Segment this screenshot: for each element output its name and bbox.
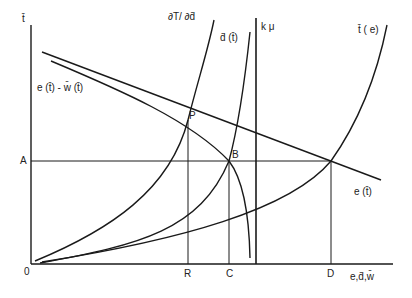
tick-r: R bbox=[184, 269, 191, 279]
diagram-canvas bbox=[0, 0, 412, 298]
point-b: B bbox=[232, 150, 239, 160]
curve-label-d-t: d̄ (t̄) bbox=[220, 33, 238, 43]
dT-dd-curve bbox=[35, 20, 214, 261]
curve-label-dT-dd: ∂T/ ∂d̄ bbox=[168, 12, 195, 22]
tick-a: A bbox=[20, 156, 27, 166]
point-p: P bbox=[189, 111, 196, 121]
curve-label-e-minus-w: e (t̄) - w̄ (t̄) bbox=[37, 83, 83, 93]
d-t-curve bbox=[40, 32, 250, 263]
curve-label-t-e: t̄ ( e) bbox=[358, 25, 379, 35]
t-e-curve bbox=[42, 25, 387, 262]
origin-label: 0 bbox=[24, 267, 30, 277]
curve-label-k-mu: k μ bbox=[261, 22, 275, 32]
curve-label-e-t: e (t̄) bbox=[354, 187, 372, 197]
x-axis-label: e,d̄,w̄ bbox=[350, 272, 374, 282]
tick-d: D bbox=[327, 269, 334, 279]
y-axis-label: t̄ bbox=[22, 14, 25, 24]
tick-c: C bbox=[226, 269, 233, 279]
